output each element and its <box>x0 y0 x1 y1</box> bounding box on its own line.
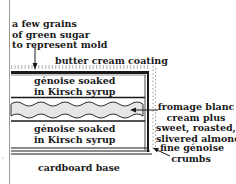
bottom-genoise-line-1: génoise soaked <box>34 124 106 135</box>
filling-label: fromage blanc cream plus sweet, roasted,… <box>156 102 236 144</box>
bottom-genoise-label: génoise soaked in Kirsch syrup <box>34 124 106 145</box>
filling-line-3: sweet, roasted, <box>156 123 236 134</box>
bottom-genoise-line-2: in Kirsch syrup <box>34 135 106 146</box>
top-genoise-line-2: in Kirsch syrup <box>34 87 106 98</box>
mold-note-label: a few grains of green sugar to represent… <box>12 19 74 51</box>
crumbs-line-2: crumbs <box>160 154 222 165</box>
coating-label: butter cream coating <box>55 56 150 67</box>
cardboard-base-lines <box>11 148 152 154</box>
butter-cream-top <box>11 71 148 74</box>
svg-text::: : <box>2 154 4 160</box>
mold-note-line-1: a few grains <box>12 19 74 30</box>
mold-note-line-3: to represent mold <box>12 40 74 51</box>
cream-filling <box>11 102 143 118</box>
top-genoise-line-1: génoise soaked <box>34 76 106 87</box>
filling-line-1: fromage blanc <box>156 102 236 113</box>
crumbs-label: fine génoise crumbs <box>160 143 222 164</box>
crumbs-line-1: fine génoise <box>160 143 222 154</box>
top-genoise-label: génoise soaked in Kirsch syrup <box>34 76 106 97</box>
butter-cream-side <box>145 71 148 152</box>
base-label: cardboard base <box>38 163 118 174</box>
